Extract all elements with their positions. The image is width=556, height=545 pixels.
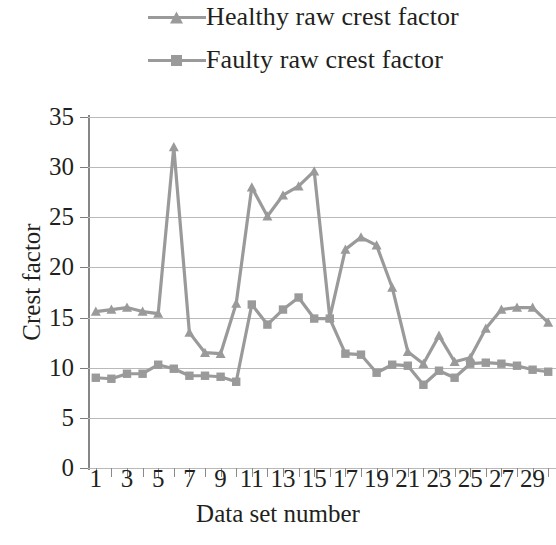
plot-axes bbox=[88, 117, 556, 468]
square-marker-icon bbox=[169, 53, 184, 68]
legend-item-faulty: Faulty raw crest factor bbox=[148, 45, 443, 75]
legend-item-healthy: Healthy raw crest factor bbox=[148, 2, 459, 32]
y-tick-label: 25 bbox=[16, 204, 74, 229]
legend-label-faulty: Faulty raw crest factor bbox=[206, 45, 443, 75]
y-tick-label: 35 bbox=[16, 104, 74, 129]
y-tick-mark bbox=[80, 117, 88, 118]
series-plot bbox=[88, 117, 556, 468]
y-tick-mark bbox=[80, 418, 88, 419]
y-tick-mark bbox=[80, 167, 88, 168]
chart-legend: Healthy raw crest factor Faulty raw cres… bbox=[0, 0, 556, 100]
y-tick-label: 15 bbox=[16, 305, 74, 330]
y-tick-label: 0 bbox=[16, 455, 74, 480]
triangle-marker-icon bbox=[169, 10, 184, 25]
y-tick-mark bbox=[80, 217, 88, 218]
chart-figure: Healthy raw crest factor Faulty raw cres… bbox=[0, 0, 556, 545]
plot-area: Crest factor 35302520151050 135791113151… bbox=[0, 100, 556, 545]
y-tick-mark bbox=[80, 318, 88, 319]
y-tick-mark bbox=[80, 267, 88, 268]
y-tick-label: 5 bbox=[16, 405, 74, 430]
y-axis-tick-labels: 35302520151050 bbox=[16, 100, 74, 480]
y-tick-label: 10 bbox=[16, 355, 74, 380]
legend-label-healthy: Healthy raw crest factor bbox=[206, 2, 459, 32]
x-axis-title: Data set number bbox=[0, 500, 556, 528]
legend-key-healthy bbox=[148, 5, 206, 29]
y-tick-mark bbox=[80, 368, 88, 369]
y-tick-label: 30 bbox=[16, 154, 74, 179]
x-tick-label: 29 bbox=[513, 466, 553, 492]
y-tick-label: 20 bbox=[16, 254, 74, 279]
series-square bbox=[92, 293, 553, 389]
legend-key-faulty bbox=[148, 48, 206, 72]
series-triangle bbox=[91, 142, 553, 368]
